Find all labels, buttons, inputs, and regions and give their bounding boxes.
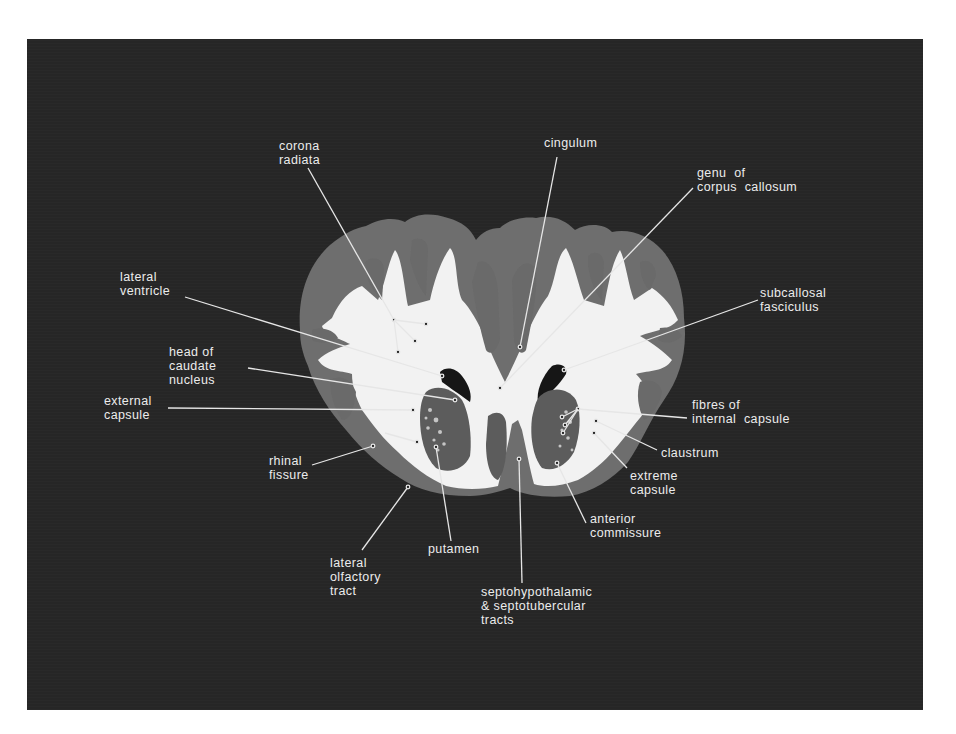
label-lateral-olfactory-tract: lateral olfactory tract [330, 556, 381, 598]
leader-tip-fibres-of-internal-capsule [563, 423, 567, 427]
label-corona-radiata: corona radiata [279, 139, 320, 167]
leader-tip-septo-tracts [517, 457, 521, 461]
label-rhinal-fissure: rhinal fissure [269, 454, 309, 482]
label-external-capsule: external capsule [104, 394, 152, 422]
leader-tip-rhinal-fissure [371, 444, 375, 448]
label-anterior-commissure: anterior commissure [590, 512, 661, 540]
leader-tip-subcallosal-fasciculus [562, 368, 566, 372]
label-head-of-caudate-nucleus: head of caudate nucleus [169, 345, 216, 387]
brain-coronal-section [0, 0, 956, 734]
leader-tip-corona-radiata [424, 322, 428, 326]
leader-tip-extreme-capsule [592, 431, 596, 435]
label-genu-of-corpus-callosum: genu of corpus callosum [697, 166, 797, 194]
leader-tip-fibres-of-internal-capsule [560, 415, 564, 419]
leader-tip-claustrum [594, 419, 598, 423]
label-putamen: putamen [428, 542, 479, 556]
leader-tip-lateral-ventricle [440, 374, 444, 378]
leader-tip-external-capsule [411, 408, 415, 412]
label-fibres-of-internal-capsule: fibres of internal capsule [692, 398, 790, 426]
leader-tip-corona-radiata [413, 339, 417, 343]
leader-tip-genu-of-corpus-callosum [498, 386, 502, 390]
leader-tip-cingulum [518, 345, 522, 349]
leader-tip-head-of-caudate-nucleus [453, 398, 457, 402]
leader-tip-lateral-olfactory-tract [406, 485, 410, 489]
label-lateral-ventricle: lateral ventricle [120, 270, 170, 298]
label-extreme-capsule: extreme capsule [630, 469, 678, 497]
leader-rhinal-fissure [312, 446, 373, 465]
leader-lateral-olfactory-tract [362, 487, 408, 550]
leader-tip-fibres-of-internal-capsule [561, 431, 565, 435]
label-cingulum: cingulum [544, 136, 597, 150]
label-septo-tracts: septohypothalamic & septotubercular trac… [481, 585, 592, 627]
label-subcallosal-fasciculus: subcallosal fasciculus [760, 286, 826, 314]
leader-tip-corona-radiata [396, 350, 400, 354]
leader-tip-rhinal-fissure [415, 440, 419, 444]
leader-tip-putamen [434, 445, 438, 449]
leader-tip-anterior-commissure [555, 461, 559, 465]
label-claustrum: claustrum [661, 446, 719, 460]
